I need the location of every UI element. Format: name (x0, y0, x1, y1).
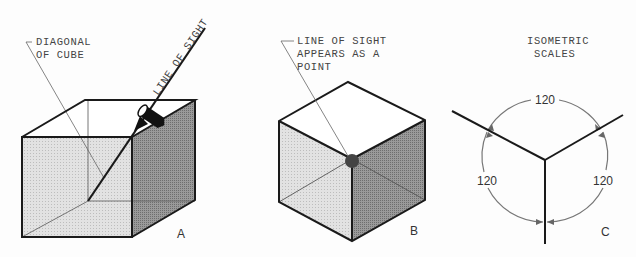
figure-c: ISOMETRIC SCALES 120 120 120 C (452, 35, 623, 244)
point-label-line1: LINE OF SIGHT (297, 35, 387, 47)
point-label-line3: POINT (297, 61, 332, 73)
angle-label-left: 120 (477, 174, 497, 188)
figure-label-a: A (177, 227, 185, 241)
figure-label-b: B (410, 224, 418, 238)
cube-a-front-face (22, 137, 132, 237)
iso-axis-right (545, 115, 623, 160)
iso-axis-left (452, 111, 545, 160)
angle-label-top: 120 (535, 93, 555, 107)
line-of-sight-label: LINE OF SIGHT (151, 17, 211, 98)
isometric-title-line1: ISOMETRIC (527, 35, 589, 47)
isometric-diagram: DIAGONAL OF CUBE LINE OF SIGHT A LINE OF… (0, 0, 636, 257)
point-label-line2: APPEARS AS A (297, 48, 380, 60)
line-of-sight-point (345, 154, 359, 168)
diagonal-label-line2: OF CUBE (36, 49, 84, 61)
isometric-title-line2: SCALES (534, 48, 575, 60)
figure-a: DIAGONAL OF CUBE LINE OF SIGHT A (22, 17, 211, 241)
figure-label-c: C (601, 225, 610, 239)
angle-label-right: 120 (593, 174, 613, 188)
diagonal-label-line1: DIAGONAL (36, 36, 91, 48)
figure-b: LINE OF SIGHT APPEARS AS A POINT B (279, 35, 425, 241)
